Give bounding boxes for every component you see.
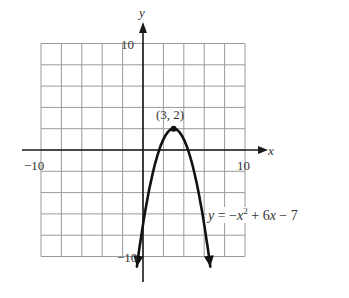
parabola-graph: [0, 0, 349, 298]
x-tick-10: 10: [237, 159, 250, 172]
y-tick-neg10: −10: [117, 251, 137, 264]
equation-mid: + 6: [248, 208, 270, 223]
vertex-label: (3, 2): [156, 108, 184, 121]
axes: [22, 22, 268, 282]
equation-label: y = −x2 + 6x − 7: [207, 207, 299, 223]
equation-end: − 7: [276, 208, 298, 223]
equation-eq: = −: [214, 208, 237, 223]
y-tick-10: 10: [121, 38, 134, 51]
y-axis-label: y: [139, 6, 145, 19]
x-tick-neg10: −10: [24, 159, 44, 172]
x-axis-label: x: [268, 144, 274, 157]
vertex-point: [171, 126, 177, 132]
